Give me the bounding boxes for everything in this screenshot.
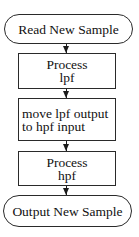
process-hpf-line-2: hpf — [58, 169, 76, 182]
arrow-down-icon — [63, 188, 69, 195]
process-hpf-box: Process hpf — [18, 151, 116, 186]
move-output-line-2: to hpf input — [22, 120, 85, 133]
move-output-line-1: move lpf output — [22, 107, 108, 120]
arrow-down-icon — [63, 46, 69, 53]
process-hpf-line-1: Process — [46, 156, 87, 169]
arrow-start-to-lpf — [62, 44, 71, 53]
start-label: Read New Sample — [18, 23, 118, 36]
process-lpf-box: Process lpf — [18, 53, 116, 89]
arrow-move-to-hpf — [62, 141, 71, 151]
end-terminator: Output New Sample — [3, 195, 132, 227]
process-lpf-line-2: lpf — [60, 71, 75, 84]
start-terminator: Read New Sample — [4, 14, 133, 44]
arrow-hpf-to-end — [62, 186, 71, 195]
end-label: Output New Sample — [12, 205, 122, 218]
move-output-box: move lpf output to hpf input — [18, 98, 116, 141]
arrow-lpf-to-move — [62, 89, 71, 98]
arrow-down-icon — [63, 144, 69, 151]
arrow-down-icon — [63, 91, 69, 98]
flowchart: Read New Sample Process lpf move lpf out… — [0, 0, 139, 237]
